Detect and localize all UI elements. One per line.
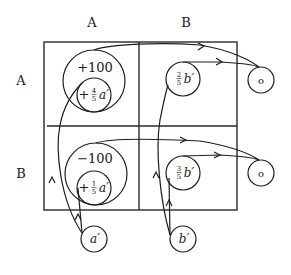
source-label-b: b′ <box>179 232 190 246</box>
source-node-a: a′ <box>81 226 107 252</box>
inner-frac-num-ba: 1 <box>92 180 96 188</box>
flow-bb-to-o2 <box>183 155 259 160</box>
inner-var-aa: a′ <box>99 88 109 102</box>
flow-b-to-bb <box>169 178 170 235</box>
sink-label-2: o <box>258 168 264 179</box>
outer-value-aa: +100 <box>77 60 113 75</box>
var-ab: b′ <box>184 72 195 86</box>
row-header-a: A <box>15 73 26 88</box>
frac-den-ab: 5 <box>177 79 181 87</box>
frac-num-bb: 3 <box>177 165 181 173</box>
inner-frac-den-ba: 5 <box>92 188 96 196</box>
inner-sign-ba: + <box>79 180 90 195</box>
frac-den-bb: 5 <box>177 173 181 181</box>
source-label-a: a′ <box>90 232 100 246</box>
sink-node-1: o <box>248 67 274 93</box>
cell-bb: 3 5 b′ <box>166 156 200 190</box>
flow-b-to-ab <box>158 85 170 235</box>
sink-label-1: o <box>258 75 264 86</box>
inner-sign-aa: + <box>79 87 90 102</box>
var-bb: b′ <box>184 166 195 180</box>
flow-diagram: A B A B +100 + 4 5 a′ −100 + 1 5 a′ 2 5 … <box>0 0 291 275</box>
row-header-b: B <box>16 166 26 181</box>
frac-num-ab: 2 <box>177 71 181 79</box>
column-header-a: A <box>86 15 97 30</box>
cell-aa: +100 + 4 5 a′ <box>63 50 125 112</box>
arrow-head-icon <box>198 43 204 50</box>
column-header-b: B <box>181 15 191 30</box>
outer-value-ba: −100 <box>77 151 113 166</box>
cell-ab: 2 5 b′ <box>166 62 200 96</box>
source-node-b: b′ <box>170 226 196 252</box>
inner-var-ba: a′ <box>99 181 109 195</box>
cell-ba: −100 + 1 5 a′ <box>65 143 127 205</box>
arrow-head-icon <box>153 172 159 178</box>
inner-frac-den-aa: 5 <box>92 95 96 103</box>
inner-frac-num-aa: 4 <box>92 87 97 95</box>
arrow-head-icon <box>49 177 55 183</box>
sink-node-2: o <box>248 160 274 186</box>
